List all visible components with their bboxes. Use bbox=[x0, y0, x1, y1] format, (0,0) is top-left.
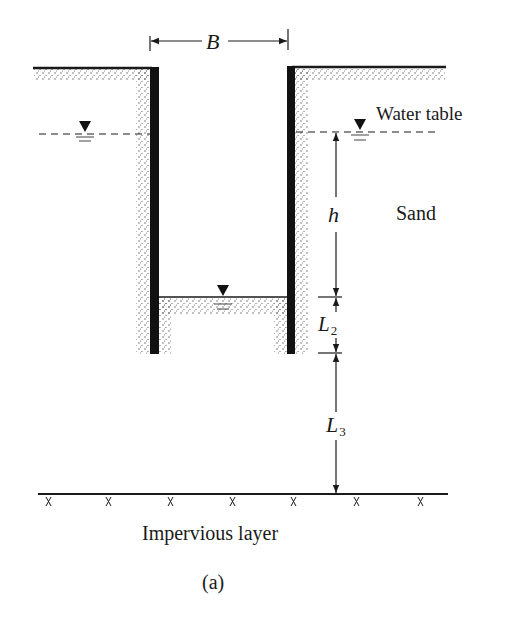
label-L3-main: L bbox=[326, 412, 338, 437]
water-level-icon-right bbox=[351, 119, 369, 140]
label-sand: Sand bbox=[396, 203, 436, 223]
figure-caption: (a) bbox=[202, 572, 224, 592]
label-water-table: Water table bbox=[376, 104, 463, 123]
label-L2: L2 bbox=[318, 314, 337, 337]
impervious-layer bbox=[38, 494, 448, 506]
label-L3-sub: 3 bbox=[339, 424, 346, 439]
label-head-h: h bbox=[328, 204, 339, 226]
sheet-pile-right bbox=[287, 66, 295, 354]
sheet-pile-left bbox=[150, 67, 159, 354]
water-level-icon-left bbox=[76, 121, 94, 141]
label-width-B: B bbox=[206, 31, 219, 53]
label-L2-sub: 2 bbox=[331, 323, 338, 338]
label-impervious-layer: Impervious layer bbox=[142, 523, 278, 543]
label-L2-main: L bbox=[318, 312, 330, 336]
label-L3: L3 bbox=[326, 414, 346, 438]
